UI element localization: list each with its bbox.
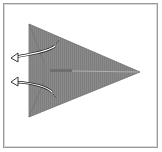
- paper-triangle: [29, 24, 140, 117]
- origami-diagram: [0, 0, 162, 152]
